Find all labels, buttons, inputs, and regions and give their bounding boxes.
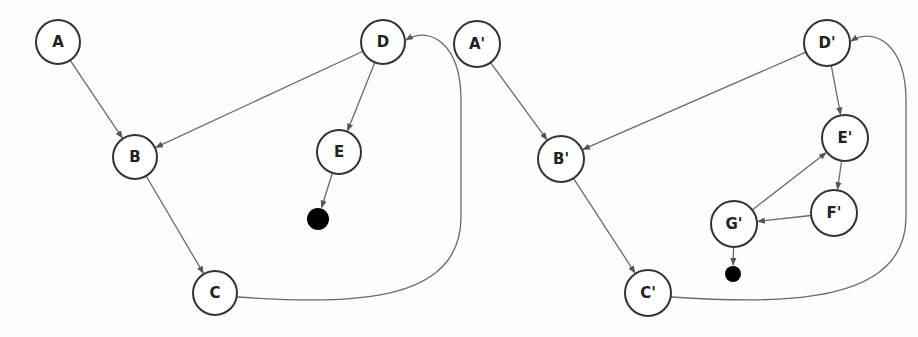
edge-E-prime-to-F-prime xyxy=(837,161,841,189)
node-D: D xyxy=(361,20,405,64)
node-label: E' xyxy=(838,129,853,147)
node-F-prime: F' xyxy=(811,190,857,236)
diagram-canvas: ABCDEA'B'C'D'E'F'G' xyxy=(0,0,918,337)
node-E-prime: E' xyxy=(822,115,868,161)
edge-D-prime-to-E-prime xyxy=(831,66,840,115)
edge-D-prime-to-B-prime xyxy=(583,52,806,149)
node-label: C' xyxy=(640,284,656,302)
edge-B-to-C xyxy=(146,176,203,273)
edge-A-prime-to-B-prime xyxy=(491,63,547,140)
node-label: D xyxy=(377,33,389,51)
edge-B-prime-to-C-prime xyxy=(574,178,635,273)
terminal-node-transformed xyxy=(725,266,741,282)
node-label: A xyxy=(52,33,64,51)
node-label: E xyxy=(334,143,344,161)
terminal-node-original xyxy=(307,208,329,230)
edge-E-to-sink xyxy=(322,173,333,208)
node-label: D' xyxy=(818,34,835,52)
node-A: A xyxy=(36,20,80,64)
edge-C-prime-to-D-prime xyxy=(671,36,906,300)
edge-A-to-B xyxy=(70,60,122,138)
node-label: B' xyxy=(553,150,569,168)
edge-F-prime-to-G-prime xyxy=(758,216,811,222)
node-label: F' xyxy=(827,204,842,222)
node-G-prime: G' xyxy=(711,201,757,247)
node-B-prime: B' xyxy=(538,136,584,182)
node-B: B xyxy=(113,135,157,179)
node-A-prime: A' xyxy=(454,21,500,67)
node-label: B xyxy=(129,148,140,166)
node-C-prime: C' xyxy=(625,270,671,316)
edges-layer xyxy=(70,35,906,300)
node-E: E xyxy=(317,130,361,174)
node-label: G' xyxy=(726,215,743,233)
edge-D-to-E xyxy=(348,62,375,130)
node-label: A' xyxy=(469,35,485,53)
node-label: C xyxy=(209,284,220,302)
node-D-prime: D' xyxy=(804,20,850,66)
node-C: C xyxy=(193,271,237,315)
nodes-layer: ABCDEA'B'C'D'E'F'G' xyxy=(36,20,868,316)
